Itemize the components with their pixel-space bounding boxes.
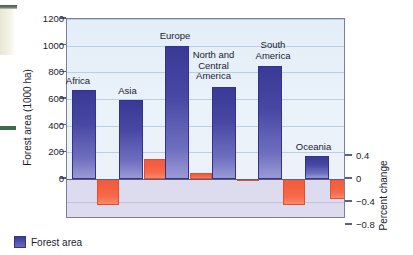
y-axis-right-tick-mark: [345, 200, 352, 201]
y-axis-right-tick-mark: [345, 177, 352, 178]
bar-percent-change: [330, 179, 346, 199]
chart-legend: Forest area: [14, 236, 82, 248]
forest-area-chart: Forest area (1000 ha) Percent change 020…: [0, 0, 413, 255]
y-axis-left-tick-label: 200: [24, 146, 64, 157]
scan-dark-bar-artifact: [0, 5, 17, 9]
y-axis-left-tick-label: 1000: [24, 39, 64, 50]
category-label: North and Central America: [179, 50, 249, 82]
bar-percent-change: [97, 179, 119, 205]
legend-label-forest-area: Forest area: [31, 237, 82, 248]
zero-axis-line: [67, 179, 344, 180]
y-axis-left-tick-label: 600: [24, 93, 64, 104]
y-axis-left-tick-label: 400: [24, 119, 64, 130]
bar-forest-area: [119, 100, 143, 179]
bar-forest-area: [258, 66, 282, 179]
scan-page-edge-artifact: [0, 9, 14, 55]
y-axis-right-tick-label: 0.4: [356, 150, 390, 161]
y-axis-right-tick-label: 0: [356, 173, 390, 184]
y-axis-left-tick-label: 0: [24, 173, 64, 184]
bar-forest-area: [305, 156, 329, 179]
bar-percent-change: [144, 159, 166, 179]
y-axis-left-tick-label: 800: [24, 66, 64, 77]
category-label: Oceania: [285, 142, 343, 153]
category-label: Asia: [103, 86, 153, 97]
y-axis-right-tick-mark: [345, 154, 352, 155]
category-label: Africa: [50, 76, 106, 87]
gridline: [67, 126, 344, 127]
gridline: [67, 19, 344, 20]
y-axis-right-tick-mark: [345, 223, 352, 224]
y-axis-left-tick-label: 1200: [24, 13, 64, 24]
scan-green-dash-artifact: [0, 126, 16, 130]
y-axis-right-tick-label: −0.8: [356, 219, 390, 230]
gridline: [67, 99, 344, 100]
bar-percent-change: [283, 179, 305, 205]
category-label: Europe: [147, 31, 203, 42]
y-axis-right-tick-label: −0.4: [356, 196, 390, 207]
bar-forest-area: [72, 90, 96, 179]
bar-forest-area: [212, 87, 236, 179]
category-label: South America: [242, 40, 304, 61]
legend-swatch-forest-area: [14, 236, 26, 248]
